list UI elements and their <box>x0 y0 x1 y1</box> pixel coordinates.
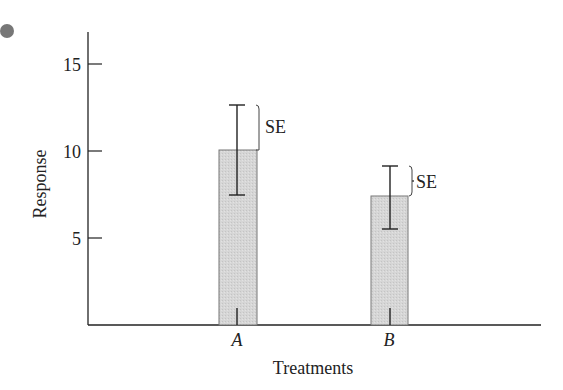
se-label-a: SE <box>265 117 286 137</box>
y-tick-label-5: 5 <box>72 229 81 249</box>
se-label-b: SE <box>416 172 437 192</box>
x-axis-label: Treatments <box>273 358 353 378</box>
se-bracket-b <box>409 166 414 196</box>
bar-a <box>219 150 257 325</box>
se-bracket-a <box>256 105 259 150</box>
y-tick-label-10: 10 <box>63 142 81 162</box>
x-tick-label-a: A <box>231 330 244 350</box>
y-tick-label-15: 15 <box>63 55 81 75</box>
bar-chart: 15 10 5 Response SE SE A B Treatments <box>0 0 563 390</box>
y-ticks <box>88 64 102 238</box>
y-axis-label: Response <box>30 149 50 218</box>
x-tick-label-b: B <box>384 330 395 350</box>
bullet-dot-icon <box>0 24 14 38</box>
